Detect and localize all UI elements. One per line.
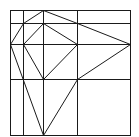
segment bbox=[44, 24, 78, 45]
segment bbox=[44, 45, 78, 80]
segment bbox=[78, 24, 131, 45]
segment bbox=[44, 11, 78, 24]
diagonal-segments bbox=[11, 11, 131, 136]
segment bbox=[44, 80, 78, 136]
segment bbox=[24, 11, 44, 24]
segment bbox=[11, 24, 24, 45]
segment bbox=[24, 24, 44, 45]
segment bbox=[11, 45, 44, 136]
outer-square bbox=[11, 11, 131, 136]
segment bbox=[78, 45, 131, 80]
geometry-diagram bbox=[0, 0, 139, 137]
segment bbox=[24, 45, 44, 80]
